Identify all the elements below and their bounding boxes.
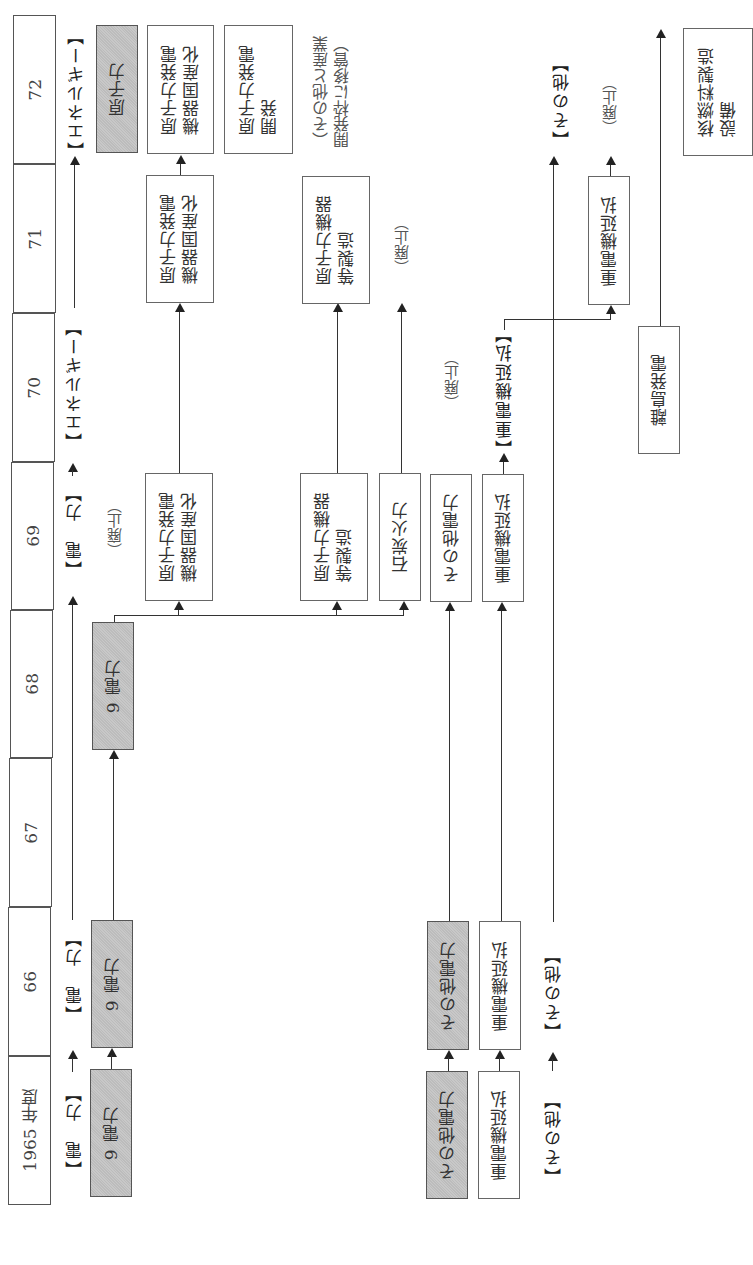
year-cell-70: 70	[12, 313, 55, 462]
connector-line	[337, 309, 338, 473]
box-label: 重電機延払	[492, 493, 515, 583]
category-denryoku-1965: 【電 力】	[58, 1075, 88, 1185]
year-label: 70	[24, 377, 44, 399]
year-cell-1965: 1965 年度	[8, 1056, 51, 1205]
box-label: その他電力	[440, 493, 463, 583]
arrow-up-icon	[68, 1050, 78, 1059]
connector-line	[72, 470, 73, 476]
year-cell-69: 69	[11, 462, 54, 610]
connector-line	[74, 162, 75, 308]
arrow-up-icon	[107, 1048, 117, 1057]
category-label: 【重電機延払】	[491, 324, 516, 457]
box-ritou-hatsuden-1970: 離島発電	[638, 326, 680, 454]
box-genshiryoku-kokusanka-1969: 原子力発電 機器国産化	[145, 473, 213, 601]
arrow-up-icon	[333, 303, 343, 312]
connector-line	[553, 162, 554, 922]
year-label: 66	[20, 971, 40, 993]
year-cell-66: 66	[8, 907, 51, 1056]
arrow-up-icon	[549, 156, 559, 165]
box-genshiryoku-kokusanka-1971: 原子力発電 機器国産化	[146, 175, 214, 303]
arrow-up-icon	[332, 601, 342, 610]
arrow-up-icon	[497, 602, 507, 611]
box-kakunenryou-1972: 核燃料製造 設備	[683, 28, 753, 156]
connector-line	[72, 602, 73, 920]
year-cell-71: 71	[13, 164, 56, 313]
category-sonota-1972: 【その他】	[545, 55, 575, 145]
connector-line	[504, 319, 505, 330]
category-energy-1972: 【エネルギー】	[60, 30, 90, 154]
box-genshiryoku-1972: 原子力	[96, 25, 138, 153]
note-haishi-sonota: （廃止）	[438, 340, 464, 420]
note-label: （廃止）	[441, 350, 462, 410]
box-label: 原子力発電 開発	[236, 45, 282, 135]
year-label: 1965 年度	[17, 1089, 42, 1172]
category-sonota-1966: 【その他】	[537, 945, 567, 1040]
connector-line	[552, 1059, 553, 1071]
arrow-up-icon	[548, 1052, 558, 1061]
arrow-up-icon	[68, 596, 78, 605]
box-label: 石炭火力	[389, 501, 412, 573]
year-label: 69	[23, 525, 43, 547]
year-label: 71	[25, 228, 45, 250]
arrow-up-icon	[68, 463, 78, 472]
category-denryoku-1966: 【電 力】	[58, 920, 88, 1030]
connector-line	[501, 608, 502, 921]
arrow-up-icon	[656, 29, 666, 38]
connector-line	[111, 1055, 112, 1069]
year-cell-67: 67	[9, 758, 52, 907]
note-haishi-1969: （廃止）	[100, 488, 128, 568]
connector-line	[503, 460, 504, 474]
box-genshiryoku-kaihatsu-1972: 原子力発電 開発	[224, 25, 293, 154]
note-label: （廃止）	[104, 498, 125, 558]
connector-line	[504, 319, 611, 320]
year-cell-68: 68	[10, 610, 53, 758]
year-cell-72: 72	[13, 15, 56, 164]
box-sonota-denryoku-1969: その他電力	[430, 474, 472, 602]
arrow-up-icon	[397, 303, 407, 312]
arrow-up-icon	[399, 601, 409, 610]
category-label: 【電 力】	[61, 483, 86, 578]
category-label: 【その他】	[540, 1090, 565, 1185]
connector-line	[113, 756, 114, 920]
box-label: 原子力機器 等製造	[311, 492, 357, 582]
box-juudenki-1971: 重電機延払	[588, 176, 630, 305]
box-sonota-denryoku-1965: その他電力	[426, 1071, 468, 1199]
category-label: 【電 力】	[61, 928, 86, 1023]
box-label: 9 電力	[102, 659, 125, 713]
note-iki-1972: （その他と産業 開発枠に移管）	[302, 22, 364, 162]
box-label: 核燃料製造 設備	[695, 47, 741, 137]
box-label: 原子力機器 等製造	[313, 195, 359, 285]
connector-line	[72, 1058, 73, 1072]
box-sonota-denryoku-1966: その他電力	[427, 921, 469, 1050]
note-haishi-sekitan: （廃止）	[388, 205, 414, 285]
year-label: 72	[25, 79, 45, 101]
box-genshiryoku-kokusanka-1972: 原子力発電 機器国産化	[147, 25, 214, 154]
box-juudenki-1966: 重電機延払	[479, 921, 521, 1050]
box-juudenki-1969: 重電機延払	[482, 474, 524, 602]
connector-line	[114, 615, 404, 616]
box-9denryoku-1968: 9 電力	[92, 622, 134, 750]
arrow-up-icon	[174, 601, 184, 610]
connector-line	[499, 1057, 500, 1071]
box-label: 重電機延払	[488, 1090, 511, 1180]
arrow-up-icon	[606, 305, 616, 314]
arrow-up-icon	[109, 750, 119, 759]
connector-line	[114, 615, 115, 622]
category-denryoku-1969: 【電 力】	[58, 475, 88, 585]
arrow-up-icon	[606, 156, 616, 165]
box-label: 離島発電	[648, 354, 671, 426]
box-label: 原子力発電 機器国産化	[158, 45, 204, 135]
category-label: 【その他】	[540, 945, 565, 1040]
box-sekitan-karyoku-1969: 石炭火力	[379, 473, 421, 601]
box-label: その他電力	[437, 941, 460, 1031]
box-label: 重電機延払	[598, 196, 621, 286]
category-juudenki-1970: 【重電機延払】	[488, 330, 518, 450]
box-label: 原子力	[106, 62, 129, 116]
connector-line	[660, 36, 661, 326]
note-label: （廃止）	[391, 215, 412, 275]
box-genshiryoku-kiki-seizou-1971: 原子力機器 等製造	[302, 176, 370, 304]
arrow-up-icon	[444, 1050, 454, 1059]
box-9denryoku-1965: 9 電力	[90, 1069, 132, 1197]
note-haishi-juudenki: （廃止）	[596, 60, 622, 150]
arrow-up-icon	[175, 303, 185, 312]
